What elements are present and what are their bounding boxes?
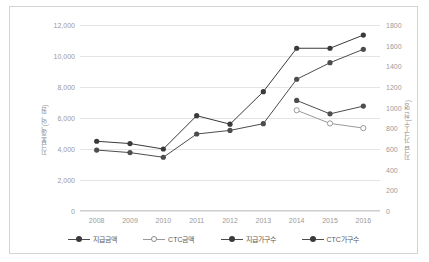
y-axis-right-tick-label: 200 [386, 187, 398, 194]
data-point [161, 155, 166, 160]
y-axis-right-tick-label: 0 [386, 208, 390, 215]
y-axis-right-tick-label: 400 [386, 166, 398, 173]
y-axis-left-tick-label: 12,000 [54, 22, 75, 29]
x-axis-tick-label: 2012 [222, 217, 238, 224]
data-point [361, 32, 366, 37]
legend-label: 지급가구수 [246, 236, 276, 243]
data-point [361, 125, 366, 130]
x-axis-tick-label: 2011 [189, 217, 204, 224]
x-axis-tick-label: 2016 [356, 217, 372, 224]
data-point [261, 121, 266, 126]
legend-marker-icon [143, 235, 165, 243]
y-axis-left-tick-label: 2,000 [57, 177, 75, 184]
data-point [194, 113, 199, 118]
legend-marker-icon [68, 235, 90, 243]
data-point [227, 122, 232, 127]
x-axis-tick-label: 2010 [156, 217, 172, 224]
legend-item[interactable]: CTC금액 [143, 235, 194, 243]
data-point [194, 131, 199, 136]
data-point [94, 139, 99, 144]
plot-area: 02,0004,0006,0008,00010,00012,000 020040… [80, 25, 380, 211]
y-axis-right-tick-label: 800 [386, 125, 398, 132]
legend-item[interactable]: 지급가구수 [221, 235, 276, 243]
legend-marker-icon [302, 235, 324, 243]
y-axis-left-tick-label: 0 [71, 208, 75, 215]
y-axis-right-tick-label: 1000 [386, 104, 402, 111]
x-axis-tick-label: 2015 [322, 217, 338, 224]
y-axis-right-tick-label: 1800 [386, 22, 402, 29]
data-point [294, 46, 299, 51]
data-point [127, 141, 132, 146]
data-point [361, 104, 366, 109]
series-line [97, 49, 364, 157]
y-axis-left-tick-label: 8,000 [57, 84, 75, 91]
legend-item[interactable]: CTC가구수 [302, 235, 359, 243]
y-axis-left-tick-label: 6,000 [57, 115, 75, 122]
data-point [294, 98, 299, 103]
x-axis-tick-label: 2014 [289, 217, 305, 224]
data-point [327, 121, 332, 126]
gridline [80, 211, 380, 212]
chart-frame: 지급총액(억 원) 지급 가구수(천 명) 02,0004,0006,0008,… [9, 6, 418, 254]
y-axis-right-tick-label: 1400 [386, 63, 402, 70]
y-axis-right-title: 지급 가구수(천 명) [403, 100, 413, 160]
data-point [294, 77, 299, 82]
chart-legend: 지급금액CTC금액지급가구수CTC가구수 [10, 235, 417, 243]
data-point [94, 147, 99, 152]
data-point [161, 146, 166, 151]
legend-label: 지급금액 [93, 236, 117, 243]
data-point [261, 89, 266, 94]
legend-marker-icon [221, 235, 243, 243]
data-point [327, 111, 332, 116]
y-axis-left-tick-label: 4,000 [57, 146, 75, 153]
data-point [327, 46, 332, 51]
y-axis-right-tick-label: 600 [386, 146, 398, 153]
y-axis-left-tick-label: 10,000 [54, 53, 75, 60]
y-axis-right-tick-label: 1200 [386, 84, 402, 91]
x-axis-tick-label: 2008 [89, 217, 105, 224]
data-point [227, 128, 232, 133]
data-point [127, 150, 132, 155]
y-axis-left-title: 지급총액(억 원) [40, 105, 50, 156]
data-point [361, 47, 366, 52]
x-axis-tick-label: 2013 [256, 217, 272, 224]
y-axis-right-tick-label: 1600 [386, 42, 402, 49]
data-point [294, 108, 299, 113]
legend-label: CTC금액 [168, 236, 194, 243]
series-lines [80, 25, 380, 211]
x-axis-tick-label: 2009 [122, 217, 138, 224]
legend-item[interactable]: 지급금액 [68, 235, 117, 243]
data-point [327, 60, 332, 65]
legend-label: CTC가구수 [327, 236, 359, 243]
